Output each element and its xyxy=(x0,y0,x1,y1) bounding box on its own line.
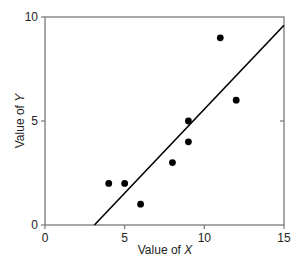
data-point xyxy=(185,138,192,145)
data-point xyxy=(185,118,192,125)
data-point xyxy=(121,180,128,187)
y-tick-label: 0 xyxy=(31,218,38,232)
data-point xyxy=(233,97,240,104)
x-axis-label: Value of X xyxy=(138,243,193,257)
y-tick-label: 5 xyxy=(31,114,38,128)
data-point xyxy=(105,180,112,187)
y-tick-label: 10 xyxy=(25,10,39,24)
data-point xyxy=(169,159,176,166)
data-points xyxy=(105,34,239,207)
plot-border xyxy=(45,17,284,225)
x-tick-label: 10 xyxy=(198,231,212,245)
regression-line xyxy=(94,25,284,225)
regression-line-path xyxy=(94,25,284,225)
axis-ticks: 0510150510 xyxy=(25,10,291,245)
data-point xyxy=(137,201,144,208)
x-tick-label: 15 xyxy=(277,231,291,245)
x-tick-label: 5 xyxy=(121,231,128,245)
x-tick-label: 0 xyxy=(42,231,49,245)
plot-frame xyxy=(45,17,284,225)
y-axis-label: Value of Y xyxy=(13,93,27,148)
data-point xyxy=(217,34,224,41)
scatter-chart: 0510150510 Value of X Value of Y xyxy=(0,0,298,272)
